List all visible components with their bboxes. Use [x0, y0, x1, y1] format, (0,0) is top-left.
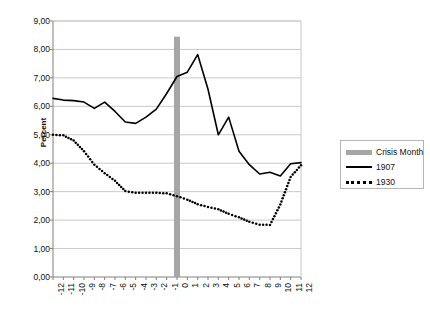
- series-point: [275, 212, 278, 215]
- series-point: [122, 188, 125, 191]
- series-point: [103, 172, 106, 175]
- series-point: [246, 219, 249, 222]
- series-point: [272, 218, 275, 221]
- series-point: [79, 146, 82, 149]
- series-point: [101, 170, 104, 173]
- series-point: [179, 196, 182, 199]
- x-tick-label: -5: [129, 283, 138, 291]
- crisis-month-swatch-icon: [346, 150, 372, 155]
- series-point: [222, 210, 225, 213]
- series-point: [276, 209, 279, 212]
- series-point: [217, 208, 220, 211]
- y-tick-label: 2,00: [14, 216, 50, 224]
- x-tick-label: 9: [274, 283, 283, 288]
- series-point: [109, 176, 112, 179]
- legend-item-1907: 1907: [346, 160, 419, 174]
- y-tick-label: 3,00: [14, 188, 50, 196]
- y-axis-tick-labels: 0,001,002,003,004,005,006,007,008,009,00: [14, 21, 50, 277]
- series-point: [284, 191, 287, 194]
- y-tick-label: 6,00: [14, 102, 50, 110]
- x-tick-label: -1: [171, 283, 180, 291]
- x-tick-label: 3: [212, 283, 221, 288]
- series-point: [262, 224, 265, 227]
- series-point: [279, 203, 282, 206]
- series-point: [191, 201, 194, 204]
- series-point: [300, 164, 303, 167]
- series-point: [120, 186, 123, 189]
- series-point: [203, 205, 206, 208]
- dotted-line-swatch-icon: [346, 181, 372, 184]
- series-point: [273, 215, 276, 218]
- x-tick-label: 5: [233, 283, 242, 288]
- y-tick-label: 0,00: [14, 273, 50, 281]
- series-point: [172, 194, 175, 197]
- x-tick-label: -12: [57, 283, 66, 295]
- x-tick-label: 6: [243, 283, 252, 288]
- series-point: [287, 182, 290, 185]
- series-point: [183, 197, 186, 200]
- x-tick-label: -11: [67, 283, 76, 295]
- series-point: [186, 198, 189, 201]
- series-point: [93, 163, 96, 166]
- series-point: [85, 153, 88, 156]
- y-tick-label: 9,00: [14, 17, 50, 25]
- series-point: [148, 192, 151, 195]
- series-point: [81, 148, 84, 151]
- series-point: [238, 216, 241, 219]
- x-tick-label: 8: [264, 283, 273, 288]
- series-point: [74, 141, 77, 144]
- series-point: [138, 192, 141, 195]
- series-point: [145, 192, 148, 195]
- series-point: [289, 176, 292, 179]
- series-point: [196, 203, 199, 206]
- series-point: [62, 134, 65, 137]
- series-point: [165, 192, 168, 195]
- series-point: [270, 221, 273, 224]
- series-point: [207, 206, 210, 209]
- series-point: [111, 178, 114, 181]
- series-point: [220, 209, 223, 212]
- series-point: [296, 169, 299, 172]
- x-tick-label: 11: [295, 283, 304, 292]
- x-tick-label: 7: [253, 283, 262, 288]
- series-point: [294, 171, 297, 174]
- series-point: [234, 215, 237, 218]
- series-point: [128, 190, 131, 193]
- x-tick-label: 12: [305, 283, 314, 292]
- series-point: [225, 211, 228, 214]
- series-point: [269, 224, 272, 227]
- series-point: [298, 166, 301, 169]
- x-axis-tick-labels: -12-11-10-9-8-7-6-5-4-3-2-10123456789101…: [53, 281, 301, 323]
- series-point: [118, 184, 121, 187]
- series-point: [291, 173, 294, 176]
- series-point: [280, 200, 283, 203]
- x-tick-label: 4: [222, 283, 231, 288]
- solid-line-swatch-icon: [346, 166, 372, 168]
- series-point: [176, 195, 179, 198]
- series-point: [243, 218, 246, 221]
- series-point: [286, 185, 289, 188]
- series-point: [288, 179, 291, 182]
- x-tick-label: 0: [181, 283, 190, 288]
- legend-label-1907: 1907: [376, 162, 395, 172]
- series-point: [91, 161, 94, 164]
- y-tick-label: 5,00: [14, 131, 50, 139]
- x-tick-label: 2: [202, 283, 211, 288]
- x-tick-label: -8: [98, 283, 107, 291]
- series-point: [70, 138, 73, 141]
- series-point: [283, 194, 286, 197]
- series-point: [258, 223, 261, 226]
- y-tick-label: 7,00: [14, 74, 50, 82]
- series-point: [65, 135, 68, 138]
- y-tick-label: 1,00: [14, 245, 50, 253]
- x-tick-label: 1: [191, 283, 200, 288]
- series-point: [240, 217, 243, 220]
- series-point: [55, 134, 58, 137]
- series-point: [131, 191, 134, 194]
- series-point: [159, 192, 162, 195]
- x-tick-label: 10: [284, 283, 293, 292]
- series-point: [189, 200, 192, 203]
- legend-label-1930: 1930: [376, 177, 395, 187]
- x-tick-label: -4: [140, 283, 149, 291]
- series-point: [124, 190, 127, 193]
